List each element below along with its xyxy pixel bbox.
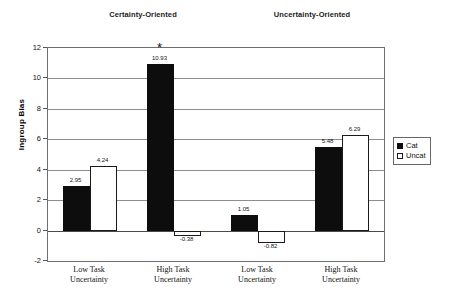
legend-label-uncat: Uncat bbox=[406, 151, 426, 161]
x-axis-category-line: High Task bbox=[322, 265, 360, 275]
y-axis-tick-mark bbox=[43, 77, 47, 78]
y-axis-tick-label: 0 bbox=[0, 225, 41, 234]
y-axis-title: Ingroup Bias bbox=[17, 70, 26, 180]
bar-uncat-group-3 bbox=[342, 135, 369, 231]
x-axis-category-label: High TaskUncertainty bbox=[322, 265, 360, 284]
bar-chart-figure: Certainty-Oriented Uncertainty-Oriented … bbox=[0, 0, 452, 299]
y-axis-tick-mark bbox=[43, 108, 47, 109]
bar-value-label: -0.82 bbox=[264, 243, 278, 249]
bar-uncat-group-2 bbox=[258, 231, 285, 243]
x-axis-category-line: Uncertainty bbox=[154, 275, 192, 285]
x-axis-category-line: Uncertainty bbox=[70, 275, 108, 285]
y-axis-tick-label: 12 bbox=[0, 43, 41, 52]
x-axis-category-label: Low TaskUncertainty bbox=[70, 265, 108, 284]
y-axis-tick-label: 4 bbox=[0, 164, 41, 173]
legend-swatch-cat-icon bbox=[397, 143, 403, 149]
bar-value-label: 1.05 bbox=[238, 206, 250, 212]
x-axis-category-label: High TaskUncertainty bbox=[154, 265, 192, 284]
x-axis-category-line: High Task bbox=[154, 265, 192, 275]
x-axis-category-line: Uncertainty bbox=[238, 275, 276, 285]
bar-cat-group-0 bbox=[63, 186, 90, 231]
y-axis-tick-mark bbox=[43, 47, 47, 48]
x-axis-category-label: Low TaskUncertainty bbox=[238, 265, 276, 284]
y-axis-tick-label: -2 bbox=[0, 256, 41, 265]
group-header-certainty-oriented: Certainty-Oriented bbox=[88, 10, 198, 19]
bar-value-label: 10.93 bbox=[152, 55, 167, 61]
bar-value-label: 4.24 bbox=[97, 157, 109, 163]
x-axis-category-line: Low Task bbox=[70, 265, 108, 275]
bar-cat-group-3 bbox=[315, 147, 342, 230]
legend-swatch-uncat-icon bbox=[397, 153, 403, 159]
bar-cat-group-2 bbox=[231, 215, 258, 231]
y-axis-tick-mark bbox=[43, 230, 47, 231]
y-axis-tick-mark bbox=[43, 199, 47, 200]
chart-legend: Cat Uncat bbox=[393, 137, 431, 165]
bar-value-label: 2.95 bbox=[70, 177, 82, 183]
x-axis-category-line: Uncertainty bbox=[322, 275, 360, 285]
bar-value-label: 5.48 bbox=[322, 138, 334, 144]
x-axis-category-line: Low Task bbox=[238, 265, 276, 275]
bar-uncat-group-0 bbox=[90, 166, 117, 231]
gridline bbox=[48, 78, 384, 79]
gridline bbox=[48, 109, 384, 110]
y-axis-tick-mark bbox=[43, 260, 47, 261]
plot-inner bbox=[48, 48, 384, 261]
y-axis-tick-label: 2 bbox=[0, 195, 41, 204]
y-axis-tick-mark bbox=[43, 138, 47, 139]
bar-value-label: -0.38 bbox=[180, 236, 194, 242]
y-axis-tick-label: 8 bbox=[0, 103, 41, 112]
zero-axis-line bbox=[48, 231, 384, 232]
legend-item-cat: Cat bbox=[397, 141, 426, 151]
group-header-uncertainty-oriented: Uncertainty-Oriented bbox=[252, 10, 372, 19]
y-axis-tick-label: 6 bbox=[0, 134, 41, 143]
y-axis-tick-label: 10 bbox=[0, 73, 41, 82]
legend-item-uncat: Uncat bbox=[397, 151, 426, 161]
legend-label-cat: Cat bbox=[406, 141, 418, 151]
plot-area bbox=[47, 47, 385, 262]
bar-value-label: 6.29 bbox=[349, 126, 361, 132]
bar-cat-group-1 bbox=[147, 64, 174, 230]
significance-asterisk: * bbox=[157, 43, 162, 52]
y-axis-tick-mark bbox=[43, 169, 47, 170]
